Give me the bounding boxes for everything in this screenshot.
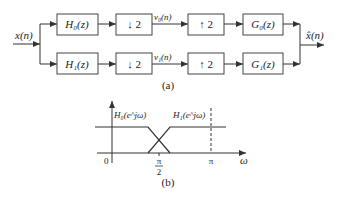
upsample-label-bottom: ↑ 2	[199, 58, 213, 70]
h0-response-label: H₀(e^jω)	[113, 110, 146, 120]
filter-bank-figure: x(n) x̂(n) H₀(z) ↓ 2 v₀(n) ↑ 2 G₀(z) H₁(…	[0, 0, 337, 200]
g1-label: G₁(z)	[251, 58, 275, 71]
g0-label: G₀(z)	[251, 18, 275, 31]
output-label: x̂(n)	[305, 29, 324, 42]
v0-label: v₀(n)	[154, 12, 172, 22]
upsample-label-top: ↑ 2	[199, 18, 213, 30]
h0-label: H₀(z)	[64, 18, 89, 31]
h1-label: H₁(z)	[64, 58, 89, 71]
frequency-response-plot: H₀(e^jω) H₁(e^jω) 0 π 2 π ω (b)	[95, 101, 248, 189]
origin-label: 0	[104, 156, 109, 166]
h1-response-label: H₁(e^jω)	[172, 110, 205, 120]
caption-a: (a)	[162, 79, 175, 92]
h1-response-curve	[148, 127, 226, 153]
pi-label: π	[209, 156, 214, 166]
block-diagram: x(n) x̂(n) H₀(z) ↓ 2 v₀(n) ↑ 2 G₀(z) H₁(…	[13, 12, 324, 92]
v1-label: v₁(n)	[154, 52, 172, 62]
downsample-label-bottom: ↓ 2	[127, 58, 141, 70]
pi-half-denominator: 2	[157, 167, 162, 177]
downsample-label-top: ↓ 2	[127, 18, 141, 30]
input-label: x(n)	[14, 29, 33, 42]
caption-b: (b)	[162, 176, 175, 189]
omega-axis-label: ω	[240, 154, 248, 166]
pi-half-numerator: π	[157, 156, 162, 166]
